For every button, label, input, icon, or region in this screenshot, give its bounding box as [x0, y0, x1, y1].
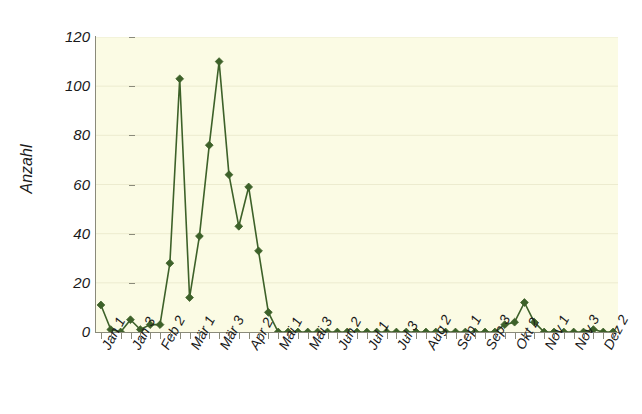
x-tick-mark: [328, 333, 329, 339]
x-tick-mark: [475, 333, 476, 339]
chart-plot-svg: [96, 37, 618, 332]
x-tick-mark: [199, 333, 200, 339]
y-tick-label: 100: [46, 78, 90, 93]
gridlines: [96, 37, 618, 283]
y-axis-ticks: 020406080100120: [40, 0, 90, 414]
x-tick-mark: [239, 333, 240, 339]
x-tick-mark: [416, 333, 417, 339]
x-tick-mark: [613, 333, 614, 339]
plot-area: [96, 37, 618, 332]
x-tick-mark: [209, 333, 210, 339]
y-tick-label: 40: [46, 226, 90, 241]
x-tick-mark: [554, 333, 555, 339]
data-line-series: [101, 62, 613, 332]
x-tick-mark: [534, 333, 535, 339]
data-point-marker: [166, 259, 174, 267]
y-tick-mark: [129, 234, 135, 235]
y-tick-label: 20: [46, 275, 90, 290]
y-axis-title: Anzahl: [18, 124, 36, 214]
data-point-markers: [97, 58, 617, 332]
x-tick-mark: [259, 333, 260, 339]
y-tick-label: 80: [46, 127, 90, 142]
x-tick-mark: [170, 333, 171, 339]
y-tick-label: 120: [46, 29, 90, 44]
x-tick-mark: [150, 333, 151, 339]
x-tick-mark: [268, 333, 269, 339]
x-tick-mark: [387, 333, 388, 339]
data-point-marker: [225, 171, 233, 179]
data-point-marker: [205, 141, 213, 149]
chart-container: 020406080100120 Anzahl Jan 1Jan 3Feb 2Mä…: [0, 0, 642, 414]
y-tick-mark: [129, 135, 135, 136]
x-tick-mark: [564, 333, 565, 339]
data-point-marker: [521, 299, 529, 307]
x-tick-mark: [140, 333, 141, 339]
x-tick-mark: [465, 333, 466, 339]
x-tick-mark: [288, 333, 289, 339]
x-tick-mark: [347, 333, 348, 339]
x-tick-mark: [524, 333, 525, 339]
data-point-marker: [264, 308, 272, 316]
data-point-marker: [97, 301, 105, 309]
x-tick-mark: [318, 333, 319, 339]
x-tick-mark: [436, 333, 437, 339]
y-tick-label: 0: [46, 324, 90, 339]
x-tick-mark: [505, 333, 506, 339]
y-tick-mark: [129, 86, 135, 87]
x-tick-mark: [377, 333, 378, 339]
y-axis-line: [95, 36, 96, 333]
x-tick-mark: [593, 333, 594, 339]
x-tick-mark: [584, 333, 585, 339]
y-tick-mark: [129, 185, 135, 186]
data-point-marker: [215, 58, 223, 66]
x-tick-mark: [357, 333, 358, 339]
x-tick-mark: [111, 333, 112, 339]
x-tick-mark: [406, 333, 407, 339]
y-tick-mark: [129, 37, 135, 38]
y-tick-label: 60: [46, 177, 90, 192]
data-point-marker: [176, 75, 184, 83]
x-tick-mark: [446, 333, 447, 339]
x-tick-mark: [229, 333, 230, 339]
x-tick-mark: [298, 333, 299, 339]
x-tick-mark: [180, 333, 181, 339]
data-point-marker: [255, 247, 263, 255]
x-tick-mark: [121, 333, 122, 339]
y-tick-mark: [129, 283, 135, 284]
data-point-marker: [186, 294, 194, 302]
data-point-marker: [235, 222, 243, 230]
x-tick-mark: [495, 333, 496, 339]
